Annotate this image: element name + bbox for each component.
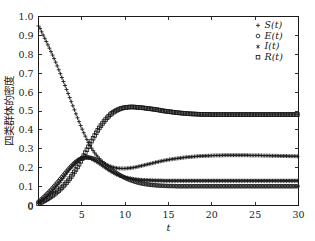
legend-label-it: I(t) (264, 40, 280, 51)
legend-label-et: E(t) (264, 30, 283, 41)
x-tick-label: 5 (79, 209, 85, 220)
y-tick-label: 0.9 (18, 30, 33, 41)
data-marker (76, 116, 80, 120)
y-tick-label: 0.2 (18, 162, 33, 173)
legend-marker-st (256, 23, 260, 27)
y-tick-label: 0.3 (18, 143, 33, 154)
data-marker (51, 53, 55, 57)
y-axis-title: 四类群体的密度 (3, 75, 15, 146)
data-marker (52, 57, 56, 61)
data-marker (74, 112, 78, 116)
legend-label-rt: R(t) (264, 51, 284, 62)
legend-marker-it (256, 45, 259, 49)
data-marker (69, 100, 73, 104)
x-tick-label: 10 (119, 209, 131, 220)
data-marker (60, 76, 64, 80)
data-marker (49, 50, 53, 54)
data-marker (71, 104, 75, 108)
data-marker (61, 80, 65, 84)
chart-legend: S(t)E(t)I(t)R(t) (256, 19, 283, 62)
y-tick-label: 0.5 (18, 105, 33, 116)
data-marker (80, 127, 84, 131)
data-marker (55, 64, 59, 68)
data-marker (77, 120, 81, 124)
legend-marker-rt (256, 55, 260, 59)
x-tick-label: 15 (162, 209, 174, 220)
y-tick-label: 1.0 (18, 11, 33, 22)
x-origin-label: 0 (27, 201, 33, 212)
data-marker (68, 96, 72, 100)
x-axis-title: t (166, 222, 171, 233)
y-tick-label: 0.4 (18, 124, 33, 135)
data-marker (79, 124, 83, 128)
x-tick-label: 20 (206, 209, 218, 220)
y-tick-label: 0.6 (18, 87, 33, 98)
data-marker (72, 108, 76, 112)
legend-marker-et (256, 34, 260, 38)
data-marker (65, 87, 69, 91)
data-marker (54, 60, 58, 64)
legend-label-st: S(t) (265, 19, 283, 30)
x-tick-label: 30 (292, 209, 304, 220)
data-marker (58, 72, 62, 76)
data-marker (82, 131, 86, 135)
y-tick-label: 0.8 (18, 49, 33, 60)
x-tick-label: 25 (249, 209, 261, 220)
data-marker (57, 68, 61, 72)
data-marker (63, 83, 67, 87)
seir-line-chart: 00.10.20.30.40.50.60.70.80.91.0510152025… (0, 0, 315, 241)
series-it (37, 155, 299, 205)
series-st (37, 24, 300, 171)
y-tick-label: 0.7 (18, 68, 33, 79)
y-tick-label: 0.1 (18, 181, 33, 192)
data-marker (66, 92, 70, 96)
chart-figure: 00.10.20.30.40.50.60.70.80.91.0510152025… (0, 0, 315, 241)
